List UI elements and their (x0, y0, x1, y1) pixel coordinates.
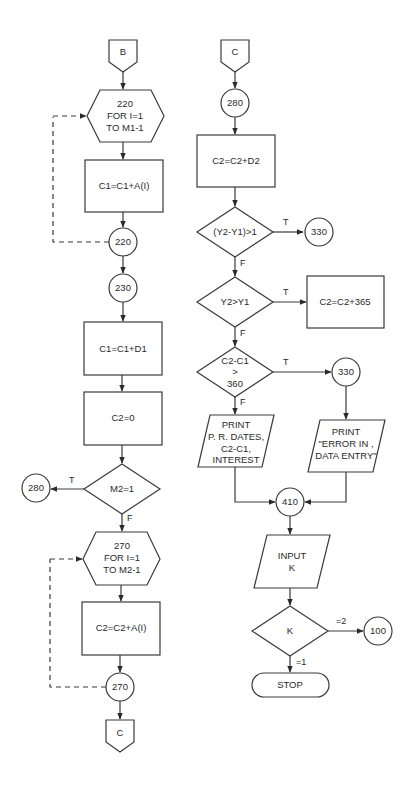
input-label: INPUT (278, 550, 307, 561)
branch-label-false: F (127, 513, 133, 523)
decision-label: > (232, 366, 238, 377)
output-print-error: PRINT "ERROR IN , DATA ENTRY" (308, 420, 385, 472)
loop-label: TO M1-1 (106, 122, 143, 133)
branch-label-true: T (69, 475, 75, 485)
connector-label: B (120, 46, 126, 57)
output-label: DATA ENTRY" (315, 450, 376, 461)
process-c2-plus-365: C2=C2+365 (307, 276, 384, 328)
output-label: PRINT (332, 426, 361, 437)
decision-y2-gt-y1: Y2>Y1 (197, 277, 273, 327)
node-label: 100 (370, 625, 386, 636)
left-column: B 220 FOR I=1 TO M1-1 C1=C1+A(I) 220 230 (22, 40, 164, 752)
output-label: INTEREST (213, 454, 260, 465)
process-c2-plus-ai: C2=C2+A(I) (82, 602, 160, 655)
node-label: 410 (282, 496, 298, 507)
offpage-connector-b: B (109, 40, 137, 72)
process-c1-plus-ai: C1=C1+A(I) (85, 160, 163, 212)
branch-label-false: F (240, 328, 246, 338)
right-column: C 280 C2=C2+D2 (Y2-Y1)>1 T 330 F Y2>Y1 (197, 40, 392, 697)
decision-label: (Y2-Y1)>1 (213, 226, 257, 237)
input-k: INPUT K (254, 535, 330, 588)
process-label: C2=0 (112, 412, 135, 423)
output-label: C2-C1, (221, 443, 251, 454)
loop-start-270: 270 FOR I=1 TO M2-1 (83, 532, 160, 585)
decision-label: K (287, 625, 294, 636)
node-label: 330 (338, 366, 354, 377)
loop-label: 220 (117, 98, 133, 109)
decision-y2-minus-y1: (Y2-Y1)>1 (197, 207, 273, 257)
branch-label-true: T (283, 217, 289, 227)
decision-k: K (252, 606, 328, 656)
output-label: "ERROR IN , (318, 438, 373, 449)
decision-m2-equals-1: M2=1 (84, 464, 160, 514)
loop-label: FOR I=1 (104, 552, 140, 563)
goto-100: 100 (364, 617, 392, 645)
offpage-connector-c-entry: C (221, 40, 249, 72)
node-label: 280 (227, 97, 243, 108)
process-c2-zero: C2=0 (84, 392, 162, 445)
terminal-stop: STOP (252, 673, 329, 697)
loop-label: TO M2-1 (103, 564, 140, 575)
process-label: C2=C2+A(I) (96, 622, 147, 633)
node-label: 330 (311, 226, 327, 237)
decision-c2-minus-c1-gt-360: C2-C1 > 360 (197, 347, 273, 397)
branch-label-true: T (283, 287, 289, 297)
offpage-connector-c-exit: C (106, 720, 134, 752)
loop-label: FOR I=1 (107, 110, 143, 121)
process-label: C1=C1+D1 (99, 343, 147, 354)
loop-end-270: 270 (106, 673, 134, 701)
decision-label: M2=1 (110, 483, 134, 494)
decision-label: C2-C1 (221, 355, 248, 366)
output-label: P. R. DATES, (208, 431, 264, 442)
output-label: PRINT (222, 419, 251, 430)
goto-330-a: 330 (305, 218, 333, 246)
connector-label: C (117, 727, 124, 738)
branch-label-false: F (240, 397, 246, 407)
process-label: C2=C2+D2 (212, 155, 260, 166)
node-230: 230 (109, 274, 137, 302)
node-label: 270 (112, 681, 128, 692)
node-410: 410 (276, 488, 304, 516)
process-c2-plus-d2: C2=C2+D2 (197, 135, 275, 187)
flowchart-canvas: B 220 FOR I=1 TO M1-1 C1=C1+A(I) 220 230 (0, 0, 410, 792)
node-330: 330 (332, 358, 360, 386)
decision-label: 360 (227, 378, 243, 389)
loop-end-220: 220 (109, 228, 137, 256)
decision-label: Y2>Y1 (221, 296, 250, 307)
input-label: K (289, 562, 296, 573)
branch-label-k-2: =2 (336, 616, 346, 626)
node-label: 220 (115, 236, 131, 247)
branch-label-k-1: =1 (296, 657, 306, 667)
process-label: C1=C1+A(I) (99, 180, 150, 191)
branch-label-false: F (240, 258, 246, 268)
terminal-label: STOP (277, 679, 303, 690)
node-280: 280 (221, 89, 249, 117)
loop-start-220: 220 FOR I=1 TO M1-1 (87, 90, 164, 142)
node-label: 230 (115, 282, 131, 293)
output-print-results: PRINT P. R. DATES, C2-C1, INTEREST (198, 415, 274, 467)
process-c1-plus-d1: C1=C1+D1 (84, 322, 162, 375)
loop-label: 270 (114, 540, 130, 551)
connector-label: C (232, 46, 239, 57)
goto-280: 280 (22, 474, 50, 502)
process-label: C2=C2+365 (319, 296, 370, 307)
node-label: 280 (28, 482, 44, 493)
branch-label-true: T (283, 357, 289, 367)
